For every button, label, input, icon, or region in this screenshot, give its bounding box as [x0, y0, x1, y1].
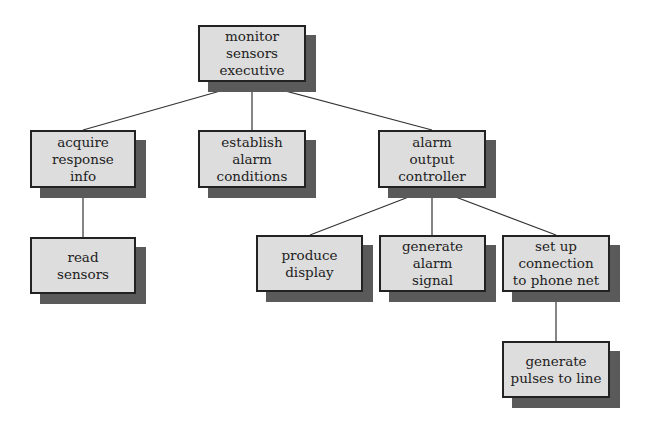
node-monitor: monitor sensors executive [198, 25, 306, 82]
node-establish: establish alarm conditions [198, 130, 306, 188]
node-read: read sensors [30, 237, 136, 294]
node-acquire: acquire response info [30, 130, 136, 188]
node-generate_alarm: generate alarm signal [379, 235, 486, 292]
node-setup: set up connection to phone net [502, 235, 610, 292]
node-alarm: alarm output controller [378, 130, 486, 188]
node-produce: produce display [256, 235, 363, 292]
node-pulses: generate pulses to line [502, 341, 610, 398]
